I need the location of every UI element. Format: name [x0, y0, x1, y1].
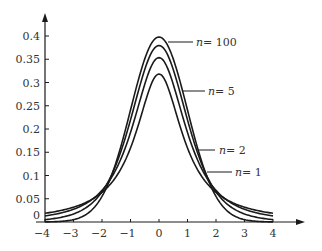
label-n2-eq: = 2 [226, 144, 246, 157]
label-n100: n= 100 [196, 36, 237, 49]
y-tick-label: 0.35 [16, 53, 41, 66]
label-n5-var: n [208, 85, 215, 98]
label-n1-var: n [235, 166, 242, 179]
label-n2-var: n [219, 144, 226, 157]
x-tick-label: 0 [156, 227, 163, 240]
label-n1: n= 1 [235, 166, 262, 179]
x-tick-label: 3 [241, 227, 248, 240]
label-n1-eq: = 1 [242, 166, 262, 179]
x-axis-arrow-icon [296, 219, 305, 225]
y-axis-arrow-icon [42, 13, 48, 22]
y-tick-label: 0 [33, 209, 40, 222]
x-tick-label: 1 [184, 227, 191, 240]
y-tick-label: 0.2 [23, 123, 41, 136]
y-tick-label: 0.3 [23, 77, 41, 90]
label-n5: n= 5 [208, 85, 235, 98]
label-n100-eq: = 100 [203, 36, 237, 49]
y-tick-label: 0.15 [16, 146, 41, 159]
t-distribution-chart: 00.050.10.150.20.250.30.350.4 −4−3−2−101… [0, 0, 322, 251]
x-tick-label: 2 [213, 227, 220, 240]
x-tick-label: 4 [270, 227, 277, 240]
y-tick-label: 0.25 [16, 100, 41, 113]
label-n2: n= 2 [219, 144, 246, 157]
label-n100-var: n [196, 36, 203, 49]
curves [45, 37, 273, 222]
x-tick-label: −2 [91, 227, 107, 240]
curve-n2 [45, 58, 273, 216]
y-tick-label: 0.1 [23, 170, 41, 183]
curve-n100 [45, 37, 273, 222]
curve-n5 [45, 45, 273, 219]
y-tick-label: 0.05 [16, 193, 41, 206]
x-tick-label: −3 [62, 227, 78, 240]
x-tick-label: −1 [119, 227, 135, 240]
x-tick-label: −4 [34, 227, 50, 240]
label-n5-eq: = 5 [215, 85, 235, 98]
y-tick-label: 0.4 [23, 30, 41, 43]
y-ticks: 00.050.10.150.20.250.30.350.4 [16, 30, 50, 222]
